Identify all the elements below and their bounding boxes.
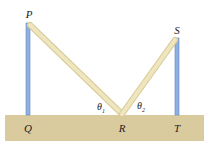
label-theta1: θ1: [97, 102, 105, 114]
label-q: Q: [24, 123, 32, 134]
label-s: S: [174, 25, 180, 36]
label-theta2: θ2: [137, 101, 145, 113]
label-p: P: [26, 9, 33, 20]
pole-st: [175, 38, 179, 115]
label-t: T: [174, 123, 180, 134]
pole-pq: [26, 23, 30, 115]
label-r: R: [119, 123, 126, 134]
